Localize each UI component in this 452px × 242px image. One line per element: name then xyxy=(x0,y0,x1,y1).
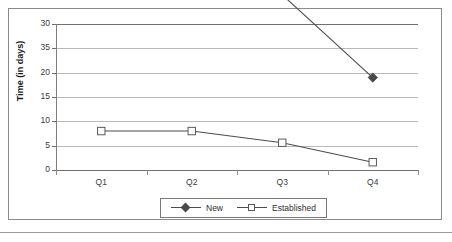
page-divider xyxy=(0,232,452,233)
legend-entry-new: New xyxy=(171,202,223,214)
x-axis-tick-label: Q1 xyxy=(81,177,121,187)
x-axis-tick-mark xyxy=(147,170,148,175)
data-point-marker xyxy=(279,139,286,146)
legend-entry-established: Established xyxy=(237,202,316,214)
legend-label-new: New xyxy=(206,203,223,213)
x-axis-tick-mark xyxy=(56,170,57,175)
y-axis-tick-label: 0 xyxy=(28,165,50,174)
y-axis-tick-label: 20 xyxy=(28,68,50,77)
x-axis-tick-mark xyxy=(328,170,329,175)
data-series-layer xyxy=(56,24,418,170)
data-point-marker xyxy=(98,127,105,134)
y-axis-title: Time (in days) xyxy=(15,11,25,131)
x-axis-tick-mark xyxy=(418,170,419,175)
y-axis-tick-label: 35 xyxy=(28,43,50,52)
y-axis-tick-label: 5 xyxy=(28,141,50,150)
x-axis-tick-label: Q3 xyxy=(262,177,302,187)
x-axis-tick-label: Q2 xyxy=(172,177,212,187)
legend-label-established: Established xyxy=(272,203,316,213)
y-axis-tick-label: 15 xyxy=(28,92,50,101)
x-axis-tick-mark xyxy=(237,170,238,175)
y-axis-tick-label: 30 xyxy=(28,19,50,28)
data-point-marker xyxy=(369,159,376,166)
chart-figure: Time (in days) 303520151050 Q1Q2Q3Q4 New… xyxy=(0,0,452,242)
series-line-established xyxy=(101,131,373,162)
y-axis-tick-label: 10 xyxy=(28,116,50,125)
x-axis-tick-label: Q4 xyxy=(353,177,393,187)
filled-diamond-marker-icon xyxy=(171,202,201,214)
data-point-marker xyxy=(188,127,195,134)
chart-legend: New Established xyxy=(160,198,327,218)
open-square-marker-icon xyxy=(237,202,267,214)
